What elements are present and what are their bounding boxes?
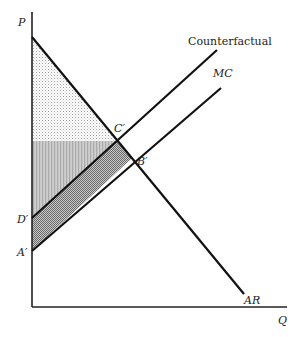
mc-label: MC	[212, 67, 233, 80]
counterfactual-label: Counterfactual	[188, 35, 272, 48]
x-axis-label: Q	[278, 314, 287, 327]
b-prime-label: B′	[136, 155, 148, 168]
a-prime-label: A′	[16, 246, 28, 259]
ar-label: AR	[243, 294, 260, 307]
d-prime-label: D′	[16, 213, 29, 226]
c-prime-label: C′	[114, 122, 125, 135]
y-axis-label: P	[17, 16, 26, 29]
economics-diagram: P Q Counterfactual MC AR C′ B′ D′ A′	[0, 0, 302, 337]
